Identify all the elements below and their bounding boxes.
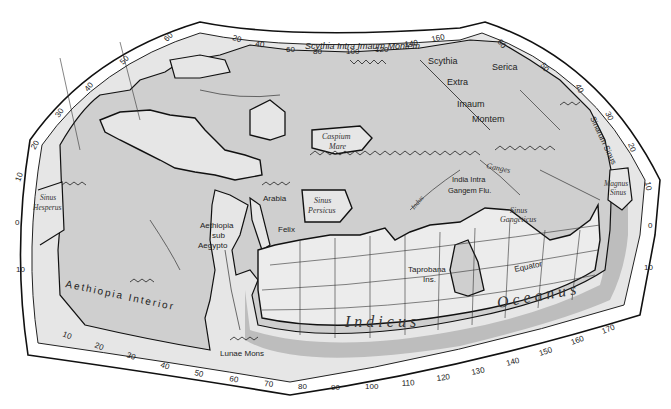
label-sinus-persicus-2: Persicus: [307, 206, 336, 215]
svg-text:150: 150: [538, 345, 554, 358]
label-sinus-gangeticus-2: Gangeticus: [500, 215, 536, 224]
svg-text:70: 70: [264, 379, 274, 389]
svg-text:130: 130: [471, 365, 486, 377]
label-arabia: Arabia: [263, 194, 287, 203]
svg-text:160: 160: [570, 334, 586, 347]
label-caspium: Caspium: [322, 132, 351, 141]
svg-text:10: 10: [16, 265, 25, 274]
label-gangem-flu: Gangem Flu.: [448, 186, 491, 195]
label-sinus-hesperus-1: Sinus: [40, 193, 56, 202]
label-aethiopia-sub-3: Aegypto: [198, 241, 228, 250]
label-serica: Serica: [492, 62, 518, 72]
label-sinus-hesperus-2: Hesperus: [32, 203, 61, 212]
ptolemy-world-map: Scythia Intra Imaum Montem Scythia Extra…: [0, 0, 671, 409]
label-indicus: I n d i c u s: [344, 313, 416, 330]
label-montem: Montem: [472, 114, 505, 124]
label-sinus-persicus-1: Sinus: [314, 196, 331, 205]
label-scythia-intra: Scythia Intra Imaum Montem: [305, 41, 421, 51]
svg-text:80: 80: [313, 47, 322, 56]
label-india-intra: India Intra: [452, 175, 486, 184]
svg-text:90: 90: [331, 383, 340, 392]
svg-text:100: 100: [365, 382, 379, 391]
svg-text:10: 10: [644, 263, 653, 272]
svg-text:60: 60: [286, 45, 295, 54]
label-taprobana: Taprobana: [408, 265, 446, 274]
svg-text:0: 0: [648, 221, 653, 230]
label-sinus-gangeticus-1: Sinus: [510, 206, 527, 215]
svg-text:0: 0: [15, 218, 20, 227]
svg-text:120: 120: [436, 372, 451, 383]
label-caspium-mare: Mare: [328, 142, 346, 151]
label-lunae-mons: Lunae Mons: [220, 349, 264, 358]
svg-text:10: 10: [13, 171, 25, 183]
svg-text:140: 140: [404, 38, 419, 49]
svg-text:100: 100: [346, 47, 360, 56]
label-magnus: Magnus: [603, 179, 628, 188]
svg-text:80: 80: [298, 382, 307, 391]
label-imaum: Imaum: [457, 99, 485, 109]
label-felix: Felix: [278, 225, 295, 234]
label-taprobana-ins: Ins.: [423, 275, 436, 284]
label-aethiopia-sub-2: sub: [212, 231, 225, 240]
svg-text:140: 140: [505, 356, 521, 368]
label-extra: Extra: [447, 77, 468, 87]
svg-text:120: 120: [375, 45, 389, 54]
label-magnus-sinus: Sinus: [610, 188, 626, 197]
label-scythia: Scythia: [428, 56, 458, 66]
svg-text:110: 110: [402, 378, 416, 388]
label-aethiopia-sub: Aethiopia: [200, 221, 234, 230]
